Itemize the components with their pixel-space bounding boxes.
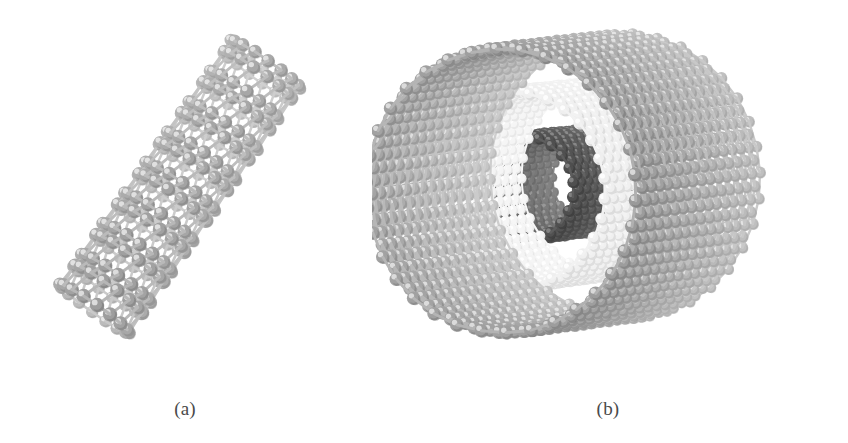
- single-walled-nanotube-render: [0, 0, 372, 390]
- multi-walled-nanotube-render: [372, 0, 848, 390]
- caption-row: (a) (b): [0, 390, 848, 443]
- panel-a-nanotube: [0, 0, 372, 390]
- panel-label-b: (b): [568, 398, 648, 420]
- figure-root: (a) (b): [0, 0, 848, 443]
- panel-label-a: (a): [145, 398, 225, 420]
- panel-b-nanotube: [372, 0, 848, 390]
